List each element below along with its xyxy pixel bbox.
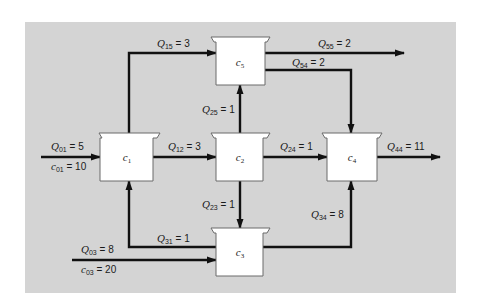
reactor-1-sub: 1 [128,157,132,165]
q03-value: = 8 [97,244,114,255]
q34-symbol: Q [311,208,319,220]
q31-value: = 1 [173,233,190,244]
flow-label-q01: Q01 = 5 [51,140,84,156]
q31-symbol: Q [157,232,165,244]
q12-value: = 3 [184,141,201,152]
reactor-3-sub: 3 [241,252,245,260]
q54-value: = 2 [308,57,325,68]
q55-symbol: Q [318,37,326,49]
reactor-network-diagram: c1 c2 c3 c4 c5 Q01 = 5 c01 = 10 Q12 = 3 … [0,0,477,306]
q55-sub: 55 [326,43,334,50]
flow-label-q15: Q15 = 3 [157,37,190,53]
q25-sub: 25 [210,109,218,116]
q34-sub: 34 [319,214,327,221]
reactor-4-label: c4 [332,151,372,167]
q12-symbol: Q [168,140,176,152]
q34-value: = 8 [327,209,344,220]
flow-label-q44: Q44 = 11 [387,140,425,156]
q01-symbol: Q [51,140,59,152]
reactor-4-sub: 4 [353,157,357,165]
reactor-2-label: c2 [220,151,260,167]
reactor-1-label: c1 [107,151,147,167]
q01-sub: 01 [59,146,67,153]
flow-label-q31: Q31 = 1 [157,232,190,248]
c03-sub: 03 [86,269,94,276]
flow-label-q55: Q55 = 2 [318,37,351,53]
q23-sub: 23 [210,204,218,211]
flow-label-q12: Q12 = 3 [168,140,201,156]
q15-symbol: Q [157,37,165,49]
q23-symbol: Q [202,198,210,210]
reactor-2-sub: 2 [241,157,245,165]
flow-label-c03: c03 = 20 [81,263,116,279]
q24-sub: 24 [288,146,296,153]
q44-value: = 11 [403,141,425,152]
q31-sub: 31 [165,238,173,245]
q03-sub: 03 [89,249,97,256]
flow-label-c01: c01 = 10 [51,160,86,176]
flow-label-q34: Q34 = 8 [311,208,344,224]
q24-symbol: Q [280,140,288,152]
q55-value: = 2 [334,38,351,49]
q23-value: = 1 [218,199,235,210]
q15-sub: 15 [165,43,173,50]
c01-value: = 10 [64,161,87,172]
q15-value: = 3 [173,38,190,49]
q25-value: = 1 [218,104,235,115]
q03-symbol: Q [81,243,89,255]
flow-label-q23: Q23 = 1 [202,198,235,214]
flow-label-q24: Q24 = 1 [280,140,313,156]
q24-value: = 1 [296,141,313,152]
reactor-5-label: c5 [220,56,260,72]
c01-sub: 01 [56,166,64,173]
q44-symbol: Q [387,140,395,152]
flow-label-q54: Q54 = 2 [292,56,325,72]
c03-value: = 20 [94,264,117,275]
flow-label-q25: Q25 = 1 [202,103,235,119]
q44-sub: 44 [395,146,403,153]
reactor-5-sub: 5 [241,62,245,70]
q54-symbol: Q [292,56,300,68]
reactor-3-label: c3 [220,246,260,262]
q01-value: = 5 [67,141,84,152]
q54-sub: 54 [300,62,308,69]
q12-sub: 12 [176,146,184,153]
flow-label-q03: Q03 = 8 [81,243,114,259]
q25-symbol: Q [202,103,210,115]
